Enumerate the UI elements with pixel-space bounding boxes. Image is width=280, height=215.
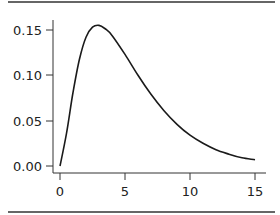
y-tick-label: 0.00	[13, 159, 42, 174]
y-axis: 0.15 0.10 0.05 0.00	[13, 20, 53, 174]
x-tick-label: 0	[56, 184, 64, 199]
chart-canvas: 0.15 0.10 0.05 0.00 0 5 10 15	[0, 0, 280, 215]
y-tick-label: 0.10	[13, 68, 42, 83]
x-tick-label: 5	[121, 184, 129, 199]
y-tick-label: 0.15	[13, 23, 42, 38]
y-tick-label: 0.05	[13, 114, 42, 129]
density-curve	[60, 25, 255, 166]
x-tick-label: 10	[182, 184, 199, 199]
x-axis: 0 5 10 15	[53, 173, 266, 199]
x-tick-label: 15	[247, 184, 264, 199]
